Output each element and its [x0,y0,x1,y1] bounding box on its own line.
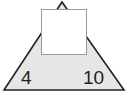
top-answer-box[interactable] [41,9,87,55]
right-corner-number: 10 [83,68,104,87]
left-corner-number: 4 [21,68,32,87]
